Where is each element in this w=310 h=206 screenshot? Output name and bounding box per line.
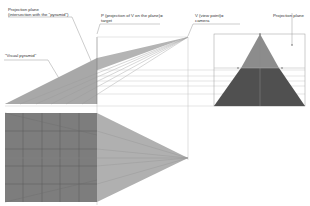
projection-plane-grid (5, 113, 97, 202)
label-projection-plane-left: Projection plane (intersection with the … (8, 7, 68, 17)
front-view-panel (214, 33, 305, 106)
label-visual-pyramid: "Visual pyramid" (5, 53, 36, 58)
label-camera-v: V (view point)= camera (195, 13, 224, 23)
label-projection-plane-right: Projection plane (273, 13, 304, 18)
label-target-p: P (projection of V on the plane)= target (101, 13, 163, 23)
perspective-diagram (0, 0, 310, 206)
